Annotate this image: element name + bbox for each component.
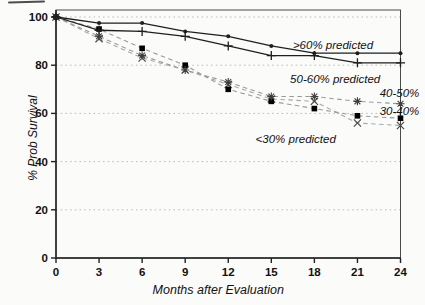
marker-plus: [353, 58, 362, 67]
x-tick-label: 21: [351, 266, 364, 278]
x-tick-label: 0: [53, 266, 59, 278]
marker-square: [312, 106, 318, 112]
marker-dot: [226, 34, 230, 38]
marker-dot: [312, 51, 316, 55]
marker-asterisk: [138, 52, 146, 60]
marker-plus: [267, 51, 276, 60]
series-line: [56, 17, 401, 125]
marker-asterisk: [310, 93, 318, 101]
marker-dot: [269, 44, 273, 48]
marker-square: [225, 87, 231, 93]
x-tick-label: 9: [182, 266, 188, 278]
series-line: [56, 17, 401, 118]
survival-chart: 02040608010003691215182124Months after E…: [0, 0, 425, 305]
marker-square: [139, 46, 145, 52]
marker-dot: [355, 51, 359, 55]
x-tick-label: 6: [139, 266, 145, 278]
x-tick-label: 15: [265, 266, 278, 278]
marker-plus: [396, 58, 405, 67]
y-tick-label: 20: [35, 204, 48, 216]
marker-dot: [54, 15, 58, 19]
y-axis-title: % Prob Survival: [26, 95, 40, 181]
curve-label: <30% predicted: [256, 133, 337, 145]
marker-dot: [399, 51, 403, 55]
y-tick-label: 80: [35, 59, 48, 71]
curve-label: >60% predicted: [293, 39, 374, 51]
x-tick-label: 24: [394, 266, 407, 278]
y-tick-label: 0: [42, 252, 48, 264]
x-tick-label: 18: [308, 266, 321, 278]
curve-label: 50-60% predicted: [290, 73, 381, 85]
marker-plus: [95, 26, 104, 35]
marker-square: [355, 113, 361, 119]
x-tick-label: 3: [96, 266, 102, 278]
chart-svg: 02040608010003691215182124Months after E…: [0, 0, 425, 305]
marker-asterisk: [224, 78, 232, 86]
marker-dot: [183, 29, 187, 33]
marker-plus: [224, 41, 233, 50]
marker-asterisk: [267, 93, 275, 101]
marker-asterisk: [353, 97, 361, 105]
marker-asterisk: [181, 66, 189, 74]
marker-dot: [97, 21, 101, 25]
marker-plus: [138, 27, 147, 36]
x-tick-label: 12: [222, 266, 235, 278]
y-tick-label: 100: [29, 11, 48, 23]
curve-label: 40-50%: [380, 87, 420, 99]
marker-x: [354, 119, 361, 126]
marker-dot: [140, 21, 144, 25]
curve-label: 30-40%: [380, 105, 420, 117]
x-axis-title: Months after Evaluation: [153, 283, 284, 297]
